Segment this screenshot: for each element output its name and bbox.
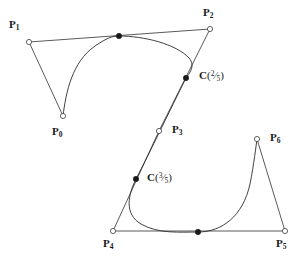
control-point-label-p1: P1 (9, 19, 20, 30)
control-point-label-p5: P5 (276, 238, 287, 249)
control-point-marker-p5[interactable] (282, 228, 287, 233)
parameter-label-c25: C(2⁄5) (199, 70, 224, 81)
control-point-marker-p1[interactable] (26, 39, 31, 44)
control-point-label-p3: P3 (172, 124, 183, 135)
parameter-marker-c25[interactable] (183, 75, 188, 80)
parameter-marker-c35[interactable] (133, 176, 138, 181)
bspline-curve (63, 36, 257, 232)
control-point-marker-p4[interactable] (110, 228, 115, 233)
parameter-label-c35: C(3⁄5) (147, 172, 172, 183)
control-point-marker-p2[interactable] (207, 26, 212, 31)
knot-marker-b[interactable] (195, 229, 200, 234)
bspline-figure (0, 0, 307, 260)
control-point-label-p0: P0 (52, 126, 63, 137)
control-point-label-p4: P4 (103, 238, 114, 249)
control-point-marker-p6[interactable] (254, 136, 259, 141)
control-point-label-p6: P6 (270, 132, 281, 143)
control-point-marker-p0[interactable] (60, 113, 65, 118)
knot-marker-a[interactable] (116, 33, 121, 38)
control-point-label-p2: P2 (203, 7, 214, 18)
control-point-marker-p3[interactable] (156, 128, 161, 133)
